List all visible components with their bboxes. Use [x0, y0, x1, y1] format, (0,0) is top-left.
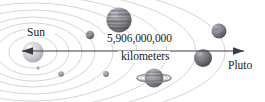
orbit-5: [0, 10, 113, 94]
planet-mars: [86, 31, 94, 39]
planet-mercury: [37, 67, 40, 70]
planet-neptune: [194, 49, 212, 67]
sun-label: Sun: [27, 27, 45, 39]
solar-system-diagram: Sun 5,906,000,000 kilometers Pluto: [0, 0, 265, 102]
distance-value-label: 5,906,000,000: [107, 33, 172, 45]
planet-earth: [103, 71, 109, 77]
planet-venus: [58, 71, 64, 77]
arrowhead-right: [233, 47, 244, 55]
planet-uranus: [212, 24, 227, 39]
planet-jupiter: [106, 8, 132, 33]
distance-unit-label: kilometers: [121, 51, 170, 63]
pluto-label: Pluto: [228, 60, 252, 72]
